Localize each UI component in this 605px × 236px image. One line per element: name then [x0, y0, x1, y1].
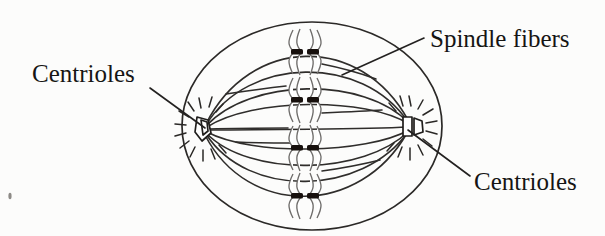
- chromosome-3: [289, 125, 321, 171]
- spindle-fiber-short: [226, 86, 286, 94]
- chromosome-2: [289, 77, 321, 123]
- diagram-page: Spindle fibers Centrioles Centrioles: [0, 0, 605, 236]
- spindle-fiber: [206, 89, 409, 126]
- spindle-fiber-group: [205, 56, 409, 196]
- leader-centrioles-left: [150, 88, 205, 128]
- centriole-shape-right-b: [414, 118, 423, 135]
- spindle-fiber-short: [322, 110, 382, 113]
- label-spindle-fibers: Spindle fibers: [430, 25, 570, 52]
- label-centrioles-right: Centrioles: [474, 168, 577, 195]
- leader-centrioles-right: [408, 130, 470, 176]
- leader-spindle-fibers: [342, 38, 424, 75]
- chromosome-1: [289, 29, 321, 75]
- spindle-fiber: [206, 72, 408, 125]
- spindle-fiber: [207, 104, 409, 127]
- spindle-fiber-short: [322, 160, 380, 171]
- scan-speck: [8, 193, 11, 199]
- cell-division-diagram: Spindle fibers Centrioles Centrioles: [0, 0, 605, 236]
- spindle-fiber-short: [236, 142, 290, 143]
- centriole-shape-right-a: [403, 117, 412, 136]
- label-centrioles-left: Centrioles: [32, 60, 135, 87]
